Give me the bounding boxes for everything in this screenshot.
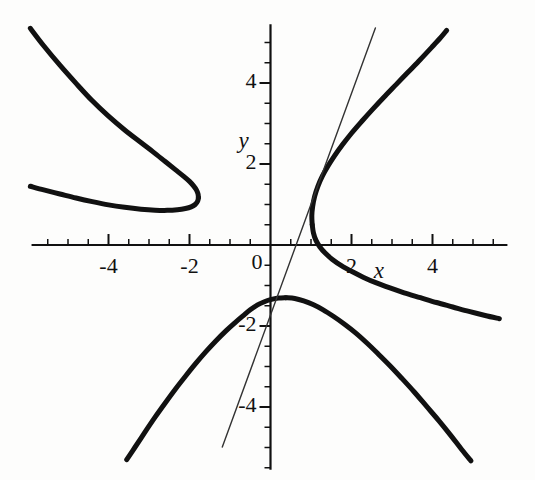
y-tick-label--4: -4	[238, 394, 256, 416]
curve-reflected-branch-right	[286, 298, 471, 461]
curve-oval-component-upper	[30, 28, 198, 197]
y-axis-label: y	[239, 129, 249, 152]
curve-oval-component-lower	[30, 186, 198, 210]
axes-group	[32, 24, 508, 470]
y-tick-label--2: -2	[238, 313, 256, 335]
x-axis-label: x	[374, 259, 384, 282]
y-tick-label-4: 4	[246, 70, 257, 92]
curve-right-branch-upper	[312, 30, 447, 224]
x-tick-label-2: 2	[346, 255, 357, 277]
y-tick-label-2: 2	[246, 151, 257, 173]
curve-reflected-branch-left	[127, 298, 286, 460]
x-tick-label--4: -4	[99, 255, 117, 277]
curve-right-branch-lower	[312, 225, 499, 319]
x-tick-label-0: 0	[252, 251, 263, 273]
x-tick-label--2: -2	[180, 255, 198, 277]
elliptic-curve-plot: -4-2024-4-224 x y	[0, 0, 535, 480]
plot-canvas	[0, 0, 535, 480]
x-tick-label-4: 4	[427, 255, 438, 277]
